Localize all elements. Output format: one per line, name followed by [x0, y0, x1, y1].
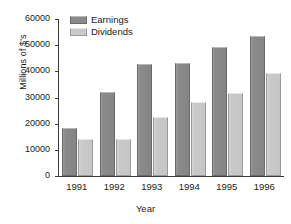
bar-earnings-1992	[100, 92, 115, 176]
bar-dividends-1992	[116, 139, 131, 176]
y-axis-tick-mark	[55, 176, 59, 177]
y-axis-tick-label: 50000	[8, 40, 50, 49]
bar-earnings-1993	[137, 64, 152, 176]
plot-area	[58, 19, 284, 177]
x-axis-tick-label: 1993	[132, 181, 172, 192]
y-axis-tick-label: 40000	[8, 66, 50, 75]
bar-dividends-1996	[266, 73, 281, 176]
bar-dividends-1993	[153, 117, 168, 176]
x-axis-label: Year	[0, 203, 291, 214]
y-axis-tick-label: 20000	[8, 119, 50, 128]
y-axis-tick-label: 30000	[8, 93, 50, 102]
bar-dividends-1994	[191, 102, 206, 176]
legend-swatch-dividends	[70, 28, 87, 36]
chart-legend: EarningsDividends	[70, 14, 133, 38]
legend-label: Dividends	[91, 27, 133, 37]
x-axis-tick-label: 1992	[94, 181, 134, 192]
bar-dividends-1995	[228, 93, 243, 176]
bar-earnings-1994	[175, 63, 190, 176]
legend-item-dividends: Dividends	[70, 26, 133, 37]
x-axis-tick-label: 1994	[169, 181, 209, 192]
legend-swatch-earnings	[70, 16, 87, 24]
legend-item-earnings: Earnings	[70, 14, 133, 25]
bar-group	[134, 19, 172, 176]
bar-earnings-1991	[62, 128, 77, 176]
bar-earnings-1996	[250, 36, 265, 176]
bar-group	[97, 19, 135, 176]
bar-group	[172, 19, 210, 176]
bar-earnings-1995	[212, 47, 227, 176]
bar-dividends-1991	[78, 139, 93, 176]
bar-group	[247, 19, 285, 176]
y-axis-tick-labels: 0100002000030000400005000060000	[6, 0, 50, 224]
x-axis-tick-label: 1991	[57, 181, 97, 192]
bar-group	[209, 19, 247, 176]
y-axis-tick-label: 10000	[8, 145, 50, 154]
x-axis-tick-label: 1996	[244, 181, 284, 192]
x-axis-tick-label: 1995	[207, 181, 247, 192]
legend-label: Earnings	[91, 15, 129, 25]
y-axis-tick-label: 60000	[8, 14, 50, 23]
bar-chart: Millions of $'s 010000200003000040000500…	[0, 0, 291, 224]
y-axis-tick-label: 0	[8, 171, 50, 180]
bar-group	[59, 19, 97, 176]
